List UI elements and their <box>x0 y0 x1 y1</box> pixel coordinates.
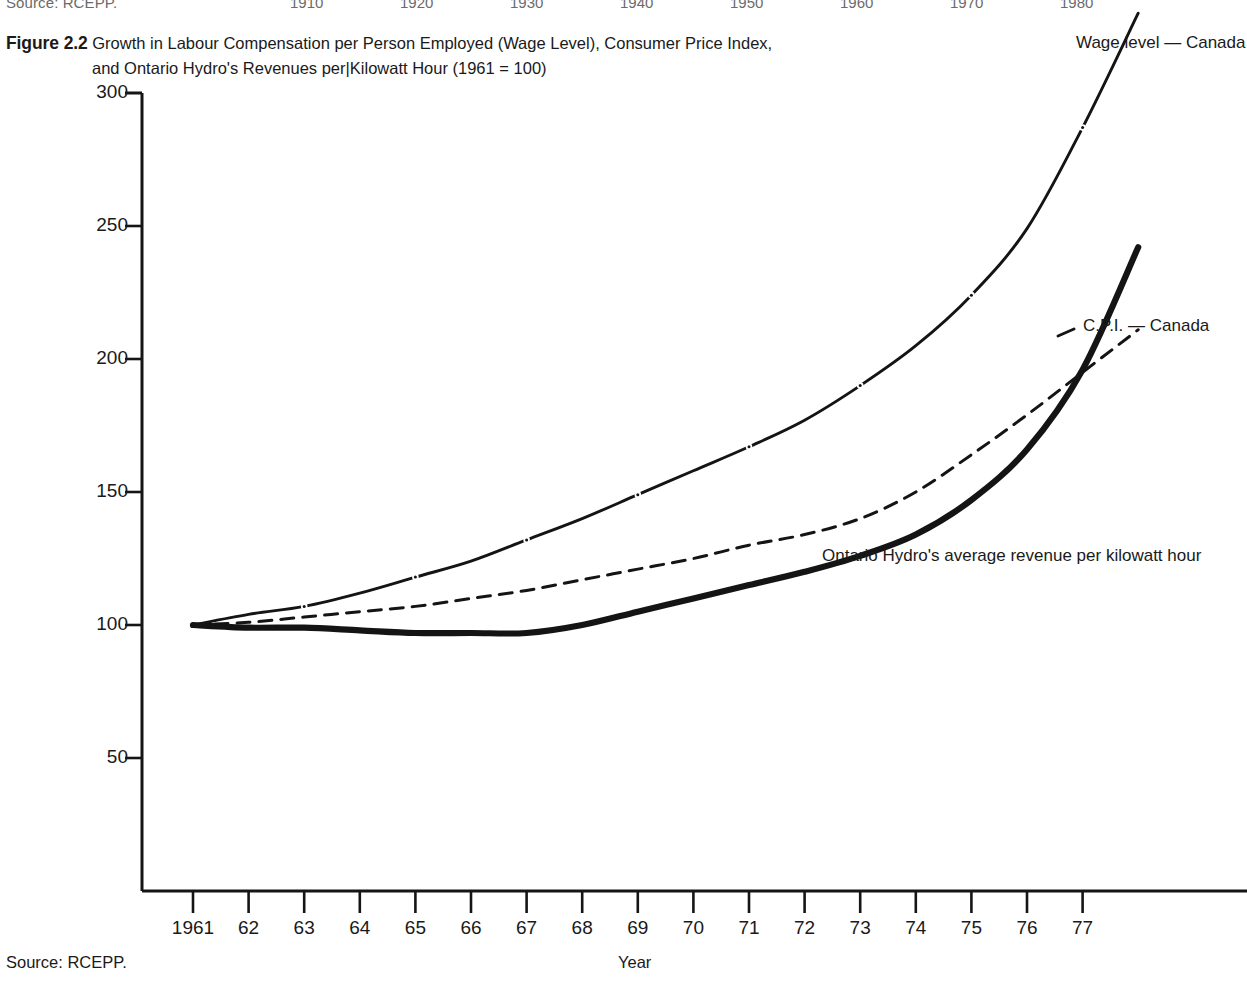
wage-line-marker-dot <box>748 445 751 448</box>
hydro-line <box>193 247 1138 633</box>
y-tick-label-150: 150 <box>66 480 128 502</box>
wage-line-marker-dot <box>414 576 417 579</box>
cpi-leader <box>1058 329 1074 336</box>
chart-svg <box>0 0 1247 986</box>
y-tick-label-250: 250 <box>66 214 128 236</box>
chart-axes <box>125 93 1247 913</box>
x-axis-title: Year <box>618 953 651 972</box>
wage-line-marker-dot <box>859 384 862 387</box>
annotation-leader-lines <box>1058 329 1074 336</box>
wage-line-marker-dot <box>636 493 639 496</box>
chart-series <box>193 13 1138 633</box>
figure-source: Source: RCEPP. <box>6 953 127 972</box>
y-tick-label-100: 100 <box>66 613 128 635</box>
wage-line-marker-dot <box>1081 126 1084 129</box>
x-tick-label-77: 77 <box>1048 917 1118 939</box>
wage-line-marker-dot <box>970 294 973 297</box>
y-tick-label-200: 200 <box>66 347 128 369</box>
wage-line <box>193 13 1138 625</box>
wage-line-marker-dot <box>525 538 528 541</box>
y-tick-label-300: 300 <box>66 81 128 103</box>
wage-line-marker-dot <box>303 605 306 608</box>
y-tick-label-50: 50 <box>66 746 128 768</box>
series-label-wage: Wage level — Canada <box>1076 33 1245 53</box>
chart-area: 300 250 200 150 100 50 19616263646566676… <box>0 0 1247 986</box>
series-label-cpi: C.P.I. — Canada <box>1083 316 1209 336</box>
series-label-hydro: Ontario Hydro's average revenue per kilo… <box>822 546 1201 566</box>
